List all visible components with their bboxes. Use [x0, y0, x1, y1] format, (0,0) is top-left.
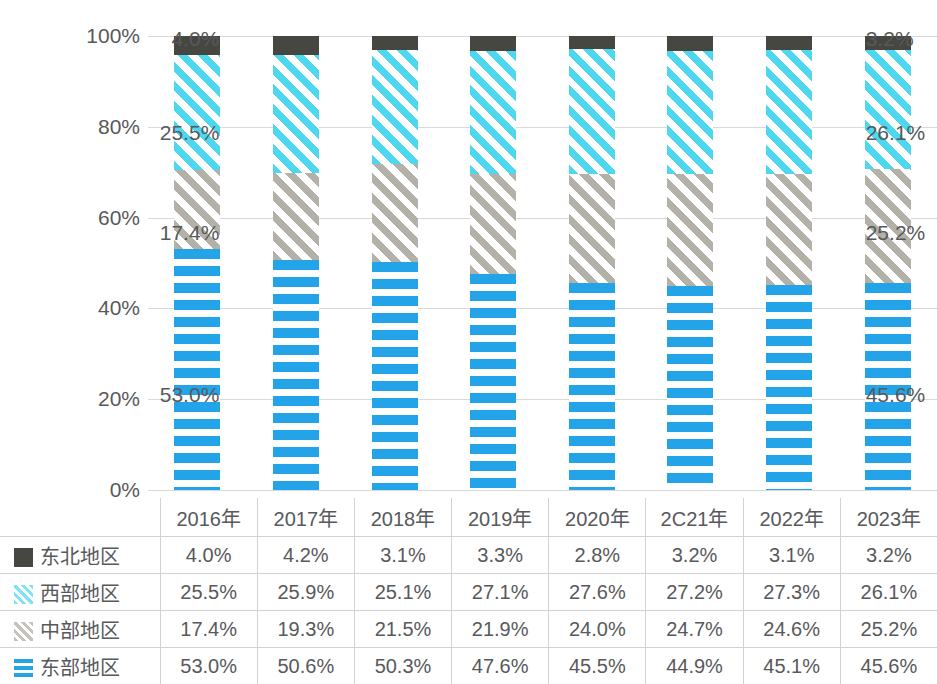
bar-segment-东北地区[interactable]	[470, 36, 516, 51]
table-cell: 26.1%	[840, 574, 937, 611]
table-cell: 3.1%	[743, 537, 840, 574]
table-column-header: 2022年	[743, 498, 840, 537]
y-axis-tick-label: 40%	[48, 297, 140, 318]
bar-segment-东北地区[interactable]	[766, 36, 812, 50]
stacked-bar[interactable]	[766, 36, 812, 490]
y-axis-tick-label: 80%	[48, 116, 140, 137]
table-cell: 25.2%	[840, 611, 937, 648]
legend-row-header: 西部地区	[0, 574, 160, 611]
bar-segment-西部地区[interactable]	[174, 55, 220, 171]
table-cell: 27.6%	[549, 574, 646, 611]
bar-segment-东部地区[interactable]	[667, 286, 713, 490]
bar-segment-东部地区[interactable]	[372, 262, 418, 490]
bar-segment-中部地区[interactable]	[372, 164, 418, 262]
table-column-header: 2017年	[257, 498, 354, 537]
table-cell: 24.0%	[549, 611, 646, 648]
table-cell: 17.4%	[160, 611, 257, 648]
bar-segment-西部地区[interactable]	[372, 50, 418, 164]
table-cell: 3.3%	[452, 537, 549, 574]
bar-segment-东北地区[interactable]	[569, 36, 615, 49]
bar-segment-东北地区[interactable]	[667, 36, 713, 51]
table-cell: 2.8%	[549, 537, 646, 574]
table-cell: 24.6%	[743, 611, 840, 648]
data-label: 25.2%	[866, 222, 926, 243]
bar-column	[345, 36, 444, 490]
table-column-header: 2019年	[452, 498, 549, 537]
bar-segment-东部地区[interactable]	[273, 260, 319, 490]
table-row: 东部地区53.0%50.6%50.3%47.6%45.5%44.9%45.1%4…	[0, 648, 937, 684]
stacked-bar[interactable]	[470, 36, 516, 490]
bar-column	[543, 36, 642, 490]
table-cell: 27.2%	[646, 574, 743, 611]
bar-column	[740, 36, 839, 490]
bar-segment-中部地区[interactable]	[470, 174, 516, 273]
stacked-bar[interactable]	[569, 36, 615, 490]
data-label: 4.0%	[171, 28, 219, 49]
plot-area: 4.0%25.5%17.4%53.0%3.2%26.1%25.2%45.6%	[148, 36, 937, 490]
table-cell: 50.6%	[257, 648, 354, 684]
table-cell: 25.5%	[160, 574, 257, 611]
bar-segment-中部地区[interactable]	[569, 174, 615, 283]
legend-row-header: 东部地区	[0, 648, 160, 684]
data-label: 45.6%	[866, 384, 926, 405]
table-cell: 50.3%	[354, 648, 451, 684]
bar-segment-中部地区[interactable]	[766, 174, 812, 286]
y-axis-tick-label: 60%	[48, 207, 140, 228]
table-row: 东北地区4.0%4.2%3.1%3.3%2.8%3.2%3.1%3.2%	[0, 537, 937, 574]
y-axis: 100%80%60%40%20%0%	[40, 36, 140, 490]
table-cell: 45.5%	[549, 648, 646, 684]
table-cell: 25.1%	[354, 574, 451, 611]
legend-swatch-icon	[14, 585, 33, 604]
bar-segment-东北地区[interactable]	[372, 36, 418, 50]
bar-segment-西部地区[interactable]	[470, 51, 516, 174]
y-axis-tick-label: 100%	[48, 25, 140, 46]
bar-segment-东部地区[interactable]	[766, 285, 812, 490]
data-label: 17.4%	[160, 222, 220, 243]
data-label: 26.1%	[866, 122, 926, 143]
table-cell: 3.1%	[354, 537, 451, 574]
table-cell: 24.7%	[646, 611, 743, 648]
stacked-bar[interactable]	[667, 36, 713, 490]
bar-segment-中部地区[interactable]	[273, 173, 319, 261]
bar-segment-东部地区[interactable]	[174, 249, 220, 490]
data-label: 3.2%	[866, 28, 914, 49]
data-table: 2016年2017年2018年2019年2020年2C21年2022年2023年…	[0, 498, 937, 684]
table-cell: 44.9%	[646, 648, 743, 684]
legend-label: 西部地区	[40, 583, 120, 605]
table-row: 中部地区17.4%19.3%21.5%21.9%24.0%24.7%24.6%2…	[0, 611, 937, 648]
stacked-bar[interactable]	[865, 36, 911, 490]
legend-swatch-icon	[14, 622, 33, 641]
bar-segment-西部地区[interactable]	[273, 55, 319, 173]
bar-segment-西部地区[interactable]	[865, 50, 911, 168]
table-cell: 3.2%	[840, 537, 937, 574]
table-column-header: 2018年	[354, 498, 451, 537]
table-header-row: 2016年2017年2018年2019年2020年2C21年2022年2023年	[0, 498, 937, 537]
bar-segment-东北地区[interactable]	[273, 36, 319, 55]
bar-segment-西部地区[interactable]	[569, 49, 615, 174]
legend-label: 东部地区	[40, 657, 120, 679]
legend-row-header: 中部地区	[0, 611, 160, 648]
table-cell: 25.9%	[257, 574, 354, 611]
stacked-bar[interactable]	[372, 36, 418, 490]
table-row: 西部地区25.5%25.9%25.1%27.1%27.6%27.2%27.3%2…	[0, 574, 937, 611]
bar-segment-东部地区[interactable]	[470, 274, 516, 490]
table-body: 东北地区4.0%4.2%3.1%3.3%2.8%3.2%3.1%3.2%西部地区…	[0, 537, 937, 684]
bar-column	[838, 36, 937, 490]
bar-column	[148, 36, 247, 490]
legend-label: 东北地区	[40, 546, 120, 568]
y-axis-tick-label: 20%	[48, 388, 140, 409]
table-cell: 27.3%	[743, 574, 840, 611]
gridline	[148, 490, 937, 491]
table-cell: 47.6%	[452, 648, 549, 684]
bar-segment-西部地区[interactable]	[667, 51, 713, 174]
bar-segment-东部地区[interactable]	[569, 283, 615, 490]
stacked-bar[interactable]	[174, 36, 220, 490]
table-cell: 4.2%	[257, 537, 354, 574]
table-cell: 3.2%	[646, 537, 743, 574]
bar-column	[641, 36, 740, 490]
bar-segment-西部地区[interactable]	[766, 50, 812, 174]
bar-segment-中部地区[interactable]	[667, 174, 713, 286]
stacked-bar[interactable]	[273, 36, 319, 490]
legend-row-header: 东北地区	[0, 537, 160, 574]
